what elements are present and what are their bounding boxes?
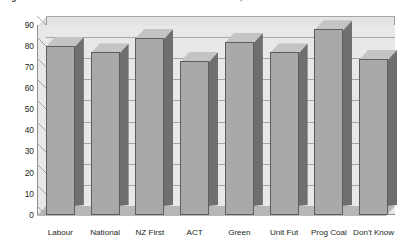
bar-face — [135, 38, 164, 215]
bar-side — [208, 52, 218, 206]
bar-prog-coal — [314, 29, 343, 215]
bar-side — [342, 20, 352, 206]
chart-bars — [0, 0, 406, 247]
bar-act — [180, 61, 209, 215]
bar-face — [314, 29, 343, 215]
bar-side — [119, 43, 129, 206]
bar-face — [270, 52, 299, 215]
bar-side — [387, 50, 397, 206]
bar-green — [225, 42, 254, 215]
bar-face — [91, 52, 120, 215]
bar-side — [74, 37, 84, 206]
bar-face — [225, 42, 254, 215]
x-axis: LabourNationalNZ FirstACTGreenUnit FutPr… — [37, 228, 395, 242]
bar-nz-first — [135, 38, 164, 215]
bar-side — [298, 43, 308, 206]
bar-side — [163, 29, 173, 206]
bar-national — [91, 52, 120, 215]
bar-labour — [46, 46, 75, 215]
x-axis-label-don-t-know: Don't Know — [346, 228, 402, 237]
bar-face — [46, 46, 75, 215]
bar-don-t-know — [359, 59, 388, 215]
bar-unit-fut — [270, 52, 299, 215]
bar-face — [359, 59, 388, 215]
figure-container: Figure 2.4Parties should disclose source… — [0, 0, 406, 247]
bar-side — [253, 33, 263, 206]
bar-face — [180, 61, 209, 215]
